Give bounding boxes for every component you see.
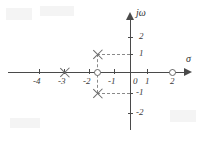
pole-marker <box>58 66 71 79</box>
y-tick-label: -1 <box>136 88 144 97</box>
real-axis-arrow-icon <box>184 68 192 76</box>
imaginary-axis-arrow-icon <box>126 12 134 20</box>
scan-artifact <box>6 8 32 20</box>
zero-marker <box>94 69 101 76</box>
x-tick-mark <box>39 69 40 74</box>
pole-zero-plot: σ jω -4 -3 -2 -1 0 1 2 2 1 -1 -2 <box>0 0 205 141</box>
pole-marker <box>91 87 104 100</box>
pole-marker <box>91 48 104 61</box>
y-tick-mark <box>128 37 133 38</box>
x-tick-label: -4 <box>33 77 41 86</box>
y-tick-label: 2 <box>139 32 144 41</box>
x-tick-label: -2 <box>83 77 91 86</box>
x-tick-mark <box>89 69 90 74</box>
real-axis-label: σ <box>186 54 191 64</box>
zero-marker <box>169 69 176 76</box>
x-tick-mark <box>114 69 115 74</box>
x-tick-label: 2 <box>170 77 175 86</box>
scan-artifact <box>10 118 40 128</box>
scan-artifact <box>40 6 74 16</box>
x-tick-label: -1 <box>108 77 116 86</box>
x-tick-mark <box>147 69 148 74</box>
x-tick-label: 1 <box>145 77 150 86</box>
x-tick-label: 0 <box>133 77 138 86</box>
y-tick-label: 1 <box>139 49 144 58</box>
imaginary-axis-label: jω <box>136 8 146 18</box>
y-tick-label: -2 <box>136 108 144 117</box>
scan-artifact <box>170 110 196 122</box>
y-tick-mark <box>128 113 133 114</box>
